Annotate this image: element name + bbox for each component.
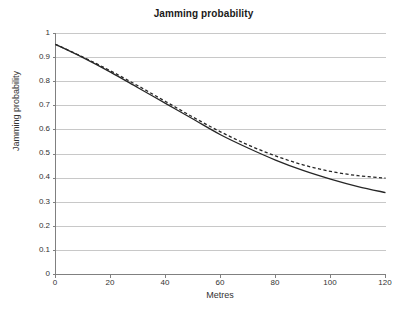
plot-area xyxy=(0,0,407,310)
series-solid-line xyxy=(56,44,386,192)
series-dashed-line xyxy=(56,44,386,178)
jamming-probability-chart: Jamming probability Jamming probability … xyxy=(0,0,407,310)
tick-marks xyxy=(53,34,386,278)
gridlines xyxy=(56,34,386,251)
